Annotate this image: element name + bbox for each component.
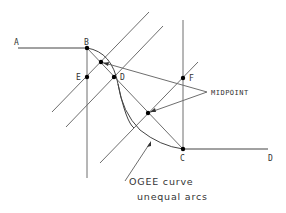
point-d-upper: [112, 75, 116, 79]
label-unequal-arcs: unequal arcs: [137, 191, 208, 202]
point-midpoint-1: [99, 60, 103, 64]
label-d-end: D: [268, 154, 273, 163]
label-midpoint: MIDPOINT: [211, 89, 249, 97]
point-e: [85, 75, 89, 79]
point-c: [181, 147, 185, 151]
label-d-upper: D: [120, 73, 125, 82]
label-b: B: [84, 38, 89, 47]
label-e: E: [76, 73, 81, 82]
arrowhead-icon: [147, 141, 151, 147]
label-f: F: [189, 74, 194, 83]
point-midpoint-2: [146, 111, 150, 115]
label-a: A: [14, 38, 19, 47]
ogee-curve-diagram: A B E D F C D MIDPOINT OGEE curve unequa…: [0, 0, 286, 213]
midpoint-leader-2: [148, 92, 207, 113]
label-c: C: [180, 154, 185, 163]
point-f: [181, 76, 185, 80]
ogee-arc-upper: [87, 48, 134, 128]
label-ogee-curve: OGEE curve: [129, 176, 193, 187]
